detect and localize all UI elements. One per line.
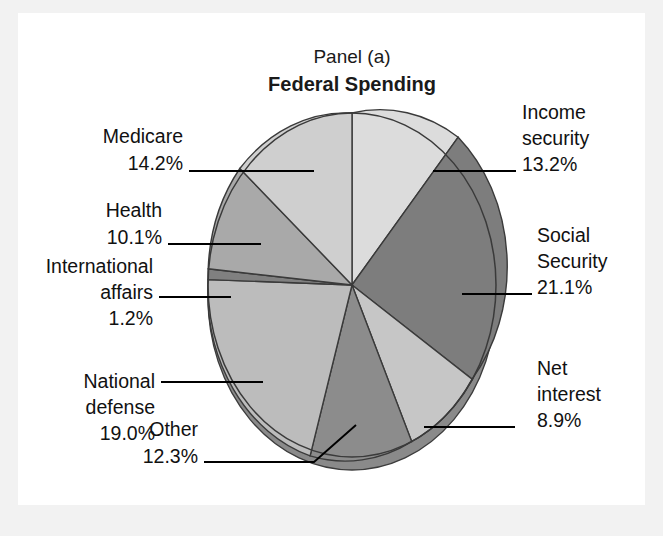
- label-net-interest-line3: 8.9%: [537, 409, 581, 431]
- label-social-security-line2: Security: [537, 250, 608, 272]
- label-net-interest-line1: Net: [537, 357, 568, 379]
- pie-chart-svg: Panel (a) Federal Spending: [18, 13, 645, 505]
- label-income-security-line2: security: [522, 127, 589, 149]
- label-income-security-line1: Income: [522, 101, 586, 123]
- label-national-defense-line3: 19.0%: [100, 422, 155, 444]
- label-medicare-line2: 14.2%: [128, 152, 183, 174]
- label-health-line2: 10.1%: [107, 226, 162, 248]
- label-international-affairs: International affairs 1.2%: [46, 255, 154, 329]
- panel-label: Panel (a): [313, 46, 390, 67]
- page-title: Federal Spending: [268, 73, 436, 95]
- label-net-interest-line2: interest: [537, 383, 602, 405]
- label-national-defense-line1: National: [83, 370, 155, 392]
- label-international-affairs-line1: International: [46, 255, 153, 277]
- figure-root: Panel (a) Federal Spending: [0, 0, 663, 536]
- label-other-line2: 12.3%: [143, 445, 198, 467]
- label-social-security-line3: 21.1%: [537, 276, 592, 298]
- label-income-security: Income security 13.2%: [522, 101, 589, 175]
- label-medicare: Medicare 14.2%: [103, 125, 183, 174]
- label-social-security-line1: Social: [537, 224, 590, 246]
- label-net-interest: Net interest 8.9%: [537, 357, 602, 431]
- label-national-defense-line2: defense: [86, 396, 155, 418]
- label-health: Health 10.1%: [106, 199, 162, 248]
- label-medicare-line1: Medicare: [103, 125, 183, 147]
- label-income-security-line3: 13.2%: [522, 153, 577, 175]
- label-health-line1: Health: [106, 199, 162, 221]
- label-national-defense: National defense 19.0%: [83, 370, 155, 444]
- label-international-affairs-line2: affairs: [100, 281, 153, 303]
- label-social-security: Social Security 21.1%: [537, 224, 608, 298]
- label-other-line1: Other: [149, 418, 198, 440]
- chart-panel: Panel (a) Federal Spending: [18, 13, 645, 505]
- label-international-affairs-line3: 1.2%: [109, 307, 153, 329]
